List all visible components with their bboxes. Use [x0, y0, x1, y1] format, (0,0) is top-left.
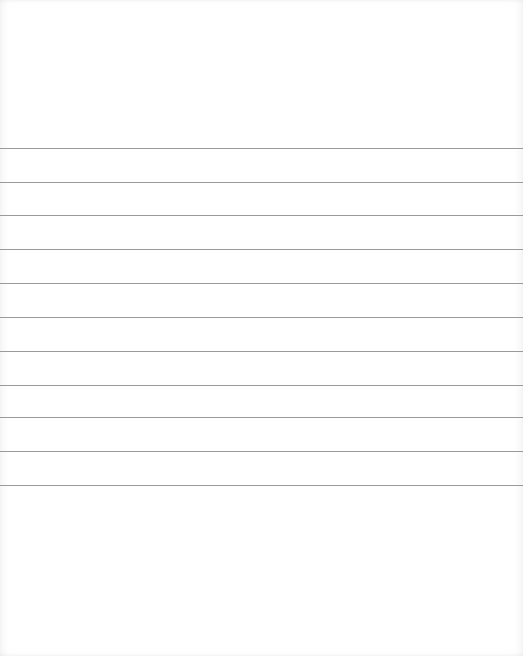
- ruled-line: [0, 485, 523, 486]
- ruled-line: [0, 283, 523, 284]
- ruled-line: [0, 385, 523, 386]
- ruled-line: [0, 451, 523, 452]
- ruled-line: [0, 351, 523, 352]
- ruled-line: [0, 417, 523, 418]
- lined-paper: [0, 0, 523, 656]
- ruled-line: [0, 215, 523, 216]
- ruled-line: [0, 317, 523, 318]
- ruled-line: [0, 182, 523, 183]
- ruled-line: [0, 148, 523, 149]
- ruled-line: [0, 249, 523, 250]
